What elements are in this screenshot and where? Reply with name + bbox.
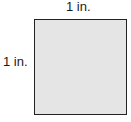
- left-side-length-label: 1 in.: [3, 55, 28, 69]
- top-side-length-label: 1 in.: [66, 0, 91, 14]
- square-shape: [34, 19, 127, 115]
